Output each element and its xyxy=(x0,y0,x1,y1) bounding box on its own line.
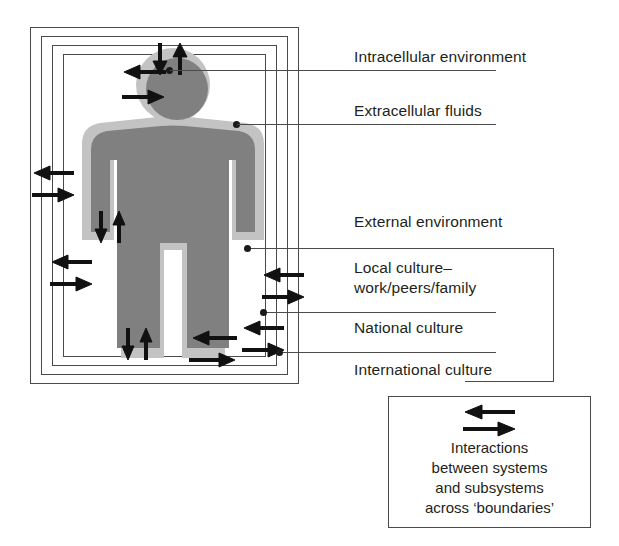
diagram-canvas: Intracellular environment Extracellular … xyxy=(0,0,619,546)
callout-leader-external-environment xyxy=(248,248,553,249)
callout-label-local-culture-line1: Local culture– xyxy=(354,258,452,277)
leg-horizontal-arrows-icon xyxy=(185,328,241,370)
callout-label-intracellular: Intracellular environment xyxy=(354,47,526,66)
callout-dot-national-culture xyxy=(276,349,283,356)
callout-bracket-bottom xyxy=(465,381,554,382)
callout-label-international-culture: International culture xyxy=(354,360,492,379)
legend-bidirectional-arrows-icon xyxy=(457,403,523,437)
callout-leader-local-culture xyxy=(264,312,496,313)
legend-line-4: across ‘boundaries’ xyxy=(389,498,590,518)
arm-vertical-arrows-icon xyxy=(92,208,130,248)
legend-line-2: between systems xyxy=(389,458,590,478)
callout-leader-national-culture xyxy=(280,352,496,353)
callout-bracket-vertical xyxy=(553,248,554,381)
head-horizontal-arrows-icon xyxy=(118,61,170,107)
callout-dot-external-environment xyxy=(244,245,251,252)
legend-line-3: and subsystems xyxy=(389,478,590,498)
callout-leader-extracellular xyxy=(237,124,496,125)
outer-left-arrows-icon xyxy=(28,163,78,205)
callout-label-national-culture: National culture xyxy=(354,318,463,337)
outer-left-lower-arrows-icon xyxy=(46,252,96,294)
callout-label-external-environment: External environment xyxy=(354,212,502,231)
callout-leader-intracellular xyxy=(170,70,496,71)
callout-label-extracellular: Extracellular fluids xyxy=(354,101,482,120)
callout-dot-local-culture xyxy=(260,309,267,316)
outer-right-upper-arrows-icon xyxy=(258,265,308,307)
legend-line-1: Interactions xyxy=(389,438,590,458)
leg-vertical-arrows-icon xyxy=(119,325,157,365)
callout-label-local-culture-line2: work/peers/family xyxy=(354,278,476,297)
legend-box: Interactions between systems and subsyst… xyxy=(388,396,591,528)
